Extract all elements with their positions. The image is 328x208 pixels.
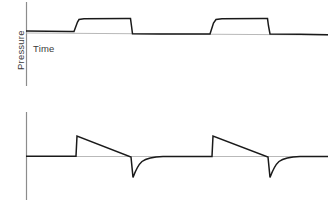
pressure-x-axis-label: Time bbox=[33, 44, 55, 54]
flow-panel: Flow Time bbox=[0, 104, 328, 208]
pressure-y-axis-label: Pressure bbox=[16, 30, 26, 70]
ventilator-waveform-figure: Pressure Time Flow Time bbox=[0, 0, 328, 208]
flow-plot-svg bbox=[0, 104, 328, 208]
pressure-trace bbox=[26, 19, 328, 35]
pressure-panel: Pressure Time bbox=[0, 0, 328, 104]
